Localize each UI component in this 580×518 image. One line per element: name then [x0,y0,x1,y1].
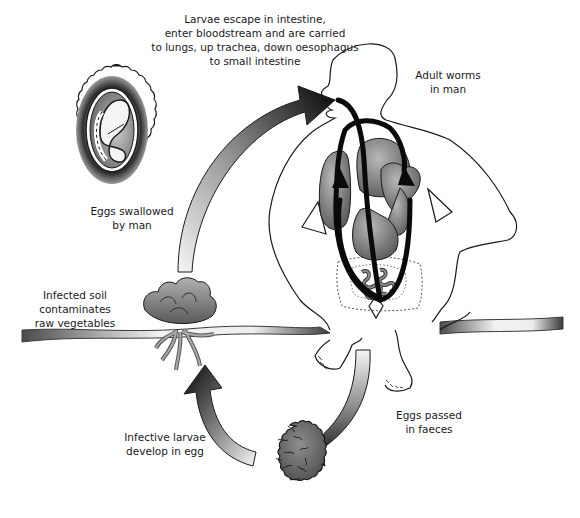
lettuce-icon [144,278,217,370]
arrow-eggs-swallowed [178,86,335,272]
label-larvae-develop: Infective larvae develop in egg [110,430,220,458]
label-eggs-passed: Eggs passed in faeces [384,408,474,436]
label-larvae-migration: Larvae escape in intestine, enter bloods… [140,12,370,68]
label-eggs-swallowed: Eggs swallowed by man [82,204,182,232]
embryonated-egg-icon [76,65,156,184]
unembryonated-egg-icon [276,421,326,481]
label-adult-worms: Adult worms in man [398,68,498,96]
label-infected-soil: Infected soil contaminates raw vegetable… [20,288,130,330]
life-cycle-diagram: Larvae escape in intestine, enter bloods… [0,0,580,518]
